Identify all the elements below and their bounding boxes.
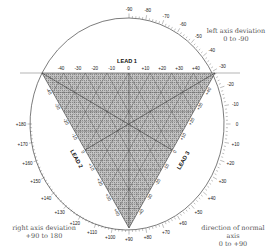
lead-3-label: LEAD 3: [176, 150, 191, 170]
lead-triangle: [20, 73, 240, 228]
normal-axis-label: direction of normal axis 0 to +90: [196, 224, 270, 248]
degree-label: -60: [180, 22, 187, 27]
degree-label: +40: [208, 196, 216, 201]
degree-label: +140: [41, 196, 52, 201]
degree-label: +130: [54, 210, 65, 215]
lead-tick-label: -40: [58, 66, 65, 71]
lead-tick-label: +40: [192, 66, 200, 71]
lead-tick-label: -10: [108, 66, 115, 71]
degree-label: -80: [144, 8, 151, 13]
degree-label: +110: [87, 230, 97, 235]
degree-label: -90: [126, 7, 133, 12]
lead-tick-label: +30: [175, 66, 183, 71]
degree-label: +20: [227, 161, 235, 166]
left-axis-deviation-line2: 0 to -90: [200, 35, 270, 43]
degree-label: -10: [232, 102, 239, 107]
degree-label: +170: [17, 142, 28, 147]
right-axis-deviation-line1: right axis deviation: [4, 224, 84, 232]
lead-tick-label: -30: [75, 66, 82, 71]
degree-label: +80: [144, 235, 152, 240]
normal-axis-line2: axis: [196, 232, 270, 240]
degree-label: -20: [227, 82, 234, 87]
lead-tick-label: +20: [158, 66, 166, 71]
degree-label: +180: [16, 122, 27, 127]
normal-axis-line3: 0 to +90: [196, 240, 270, 248]
left-axis-deviation-line1: left axis deviation: [200, 27, 270, 35]
degree-label: +70: [162, 230, 170, 235]
degree-label: -70: [163, 14, 170, 19]
lead-1-label: LEAD 1: [117, 58, 137, 64]
degree-label: 0: [236, 122, 239, 127]
lead-tick-label: 0: [127, 66, 130, 71]
lead-tick-label: +10: [141, 66, 149, 71]
degree-label: +100: [105, 235, 116, 240]
normal-axis-line1: direction of normal: [196, 224, 270, 232]
right-axis-deviation-line2: +90 to 180: [4, 232, 84, 240]
degree-label: +150: [30, 179, 41, 184]
degree-label: +160: [22, 161, 33, 166]
right-axis-deviation-label: right axis deviation +90 to 180: [4, 224, 84, 240]
degree-label: +50: [195, 210, 203, 215]
degree-label: -40: [208, 48, 215, 53]
lead-tick-label: 0: [80, 149, 86, 154]
lead-tick-label: -20: [91, 66, 98, 71]
degree-label: +10: [231, 142, 239, 147]
degree-label: +30: [219, 179, 227, 184]
degree-label: -30: [219, 64, 226, 69]
lead-1-scale: -40-30-20-100+10+20+30+40: [58, 66, 201, 71]
lead-tick-label: 0: [172, 149, 178, 154]
degree-label: +60: [179, 221, 187, 226]
left-axis-deviation-label: left axis deviation 0 to -90: [200, 27, 270, 43]
degree-label: +90: [125, 237, 133, 242]
